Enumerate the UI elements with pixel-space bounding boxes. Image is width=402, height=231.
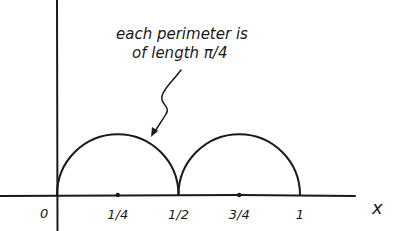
tick-label: 1/2 (168, 207, 189, 222)
pointer-arrow (154, 70, 181, 133)
semicircle-arcs (57, 134, 300, 195)
x-axis (0, 195, 355, 196)
semicircle-arc-1 (57, 134, 179, 195)
semicircle-arc-2 (179, 134, 301, 195)
tick-label: 1/4 (107, 207, 128, 222)
annotation-length-text: of length (132, 44, 204, 62)
tick-dot (116, 193, 120, 197)
annotation-line-2: of length π/4 (132, 44, 227, 62)
x-ticks: 1/41/23/41 (107, 193, 304, 222)
tick-label: 1 (296, 207, 304, 222)
tick-label: 3/4 (229, 207, 250, 222)
annotation-line-1: each perimeter is (116, 25, 248, 43)
tick-dot (237, 193, 241, 197)
origin-label: 0 (40, 206, 48, 221)
diagram-canvas: 1/41/23/41 0 x each perimeter is of leng… (0, 0, 402, 231)
annotation-length-value: π/4 (204, 44, 228, 62)
x-axis-label: x (371, 197, 383, 218)
